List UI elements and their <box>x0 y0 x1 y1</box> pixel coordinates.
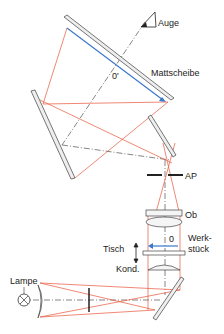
stage <box>143 251 185 255</box>
label-stueck: stück <box>188 244 209 254</box>
label-werk: Werk- <box>188 233 212 243</box>
collector-lens <box>38 285 42 318</box>
label-kond: Kond. <box>116 264 140 274</box>
objective-lens <box>146 210 182 227</box>
label-ap: AP <box>185 171 197 181</box>
label-tisch: Tisch <box>103 244 124 254</box>
label-auge: Auge <box>158 18 179 28</box>
image-arrow <box>67 28 163 100</box>
label-lampe: Lampe <box>10 276 38 286</box>
label-zero: 0 <box>169 234 174 244</box>
mirrors <box>31 15 184 320</box>
label-mattscheibe: Mattscheibe <box>151 68 200 78</box>
label-zero-prime: 0' <box>112 71 119 81</box>
label-ob: Ob <box>185 210 197 220</box>
stage-arrow-icon <box>134 243 138 263</box>
condenser-lens <box>148 265 180 270</box>
